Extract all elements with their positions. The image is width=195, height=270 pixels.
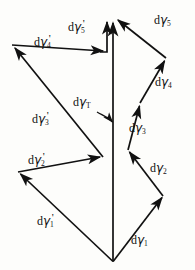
label-left-4: dγ4' bbox=[34, 33, 51, 49]
label-right-4: dγ4 bbox=[155, 76, 172, 90]
label-right-1: dγ1 bbox=[131, 234, 148, 248]
label-left-5: dγ5' bbox=[68, 18, 85, 34]
label-right-5: dγ5 bbox=[154, 14, 171, 28]
total-label-leader bbox=[97, 112, 113, 122]
label-total: dγT bbox=[73, 96, 91, 110]
label-left-3: dγ3' bbox=[32, 110, 49, 126]
label-right-2: dγ2 bbox=[150, 162, 167, 176]
label-left-1: dγ1' bbox=[37, 212, 54, 228]
label-left-2: dγ2' bbox=[28, 151, 45, 167]
vector-diagram-svg bbox=[0, 0, 195, 270]
vector-left-4 bbox=[12, 45, 103, 51]
vector-left-1 bbox=[21, 174, 113, 261]
label-right-3: dγ3 bbox=[129, 122, 146, 136]
vector-right-1 bbox=[114, 198, 163, 262]
vector-diagram-figure: dγT dγ1 dγ2 dγ3 dγ4 dγ5 dγ1' dγ2' dγ3' d… bbox=[0, 0, 195, 270]
vector-left-5 bbox=[100, 22, 107, 52]
